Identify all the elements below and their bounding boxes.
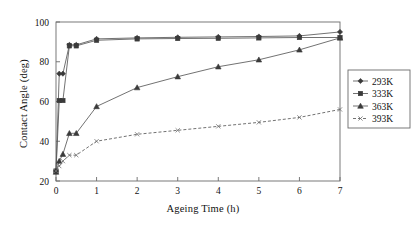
x-tick-label: 2 — [135, 186, 140, 196]
series-363K — [53, 35, 343, 174]
series-line-363K — [56, 38, 340, 172]
y-tick-label: 100 — [35, 18, 50, 28]
marker-square — [67, 44, 71, 48]
plot-frame — [56, 22, 340, 181]
marker-x — [61, 159, 65, 163]
legend: 293K333K363K393K — [348, 70, 410, 128]
x-tick-label: 4 — [216, 186, 221, 196]
y-tick-label: 60 — [40, 97, 50, 107]
marker-square — [94, 38, 98, 42]
marker-square — [135, 37, 139, 41]
marker-square — [74, 44, 78, 48]
marker-square — [358, 91, 362, 95]
legend-label-293K: 293K — [372, 77, 393, 87]
marker-x — [94, 139, 98, 143]
legend-label-363K: 363K — [372, 102, 393, 112]
x-tick-label: 1 — [94, 186, 99, 196]
contact-angle-line-chart: 0123456720406080100293K333K363K393K — [0, 0, 416, 225]
y-axis-title: Contact Angle (deg) — [18, 34, 29, 174]
marker-diamond — [60, 71, 65, 76]
marker-square — [216, 36, 220, 40]
x-axis-title: Ageing Time (h) — [148, 203, 258, 214]
chart-figure: 0123456720406080100293K333K363K393K Cont… — [0, 0, 416, 225]
x-tick-label: 3 — [175, 186, 180, 196]
legend-label-333K: 333K — [372, 89, 393, 99]
x-tick-label: 5 — [256, 186, 261, 196]
legend-label-393K: 393K — [372, 114, 393, 124]
marker-square — [176, 36, 180, 40]
marker-triangle — [60, 151, 66, 156]
y-tick-label: 20 — [40, 177, 50, 187]
x-tick-label: 6 — [297, 186, 302, 196]
x-tick-label: 0 — [54, 186, 59, 196]
marker-diamond — [337, 29, 342, 34]
series-line-293K — [56, 32, 340, 171]
y-tick-label: 80 — [40, 57, 50, 67]
x-tick-label: 7 — [338, 186, 343, 196]
series-line-333K — [56, 38, 340, 172]
y-tick-label: 40 — [40, 137, 50, 147]
series-393K — [54, 107, 342, 173]
marker-square — [61, 98, 65, 102]
marker-square — [257, 36, 261, 40]
marker-square — [297, 35, 301, 39]
series-line-393K — [56, 109, 340, 171]
legend-marker-333K — [358, 91, 362, 95]
marker-triangle — [94, 104, 100, 109]
